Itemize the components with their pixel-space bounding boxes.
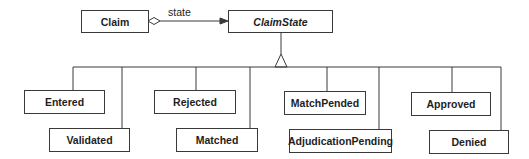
class-rejected: Rejected: [154, 90, 236, 114]
class-name: Validated: [66, 134, 112, 146]
class-name: Claim: [101, 16, 130, 28]
class-name: Matched: [196, 134, 239, 146]
class-entered: Entered: [24, 90, 105, 114]
class-name: Approved: [426, 98, 475, 110]
class-name: Entered: [45, 96, 84, 108]
arrowhead-icon: [220, 18, 228, 24]
association-label: state: [168, 6, 191, 18]
class-adjudicationpending: AdjudicationPending: [289, 129, 392, 153]
class-claim: Claim: [81, 10, 149, 33]
generalization-triangle-icon: [275, 54, 287, 67]
class-matchpended: MatchPended: [284, 91, 366, 115]
class-name: ClaimState: [253, 16, 307, 28]
class-matched: Matched: [176, 128, 258, 152]
class-name: Rejected: [173, 96, 217, 108]
class-approved: Approved: [411, 92, 491, 116]
class-name: Denied: [451, 136, 486, 148]
class-denied: Denied: [429, 130, 509, 154]
class-name: AdjudicationPending: [288, 135, 393, 147]
class-name: MatchPended: [291, 97, 359, 109]
aggregation-diamond-icon: [148, 18, 160, 25]
class-validated: Validated: [49, 128, 130, 152]
class-claimstate: ClaimState: [228, 10, 333, 33]
